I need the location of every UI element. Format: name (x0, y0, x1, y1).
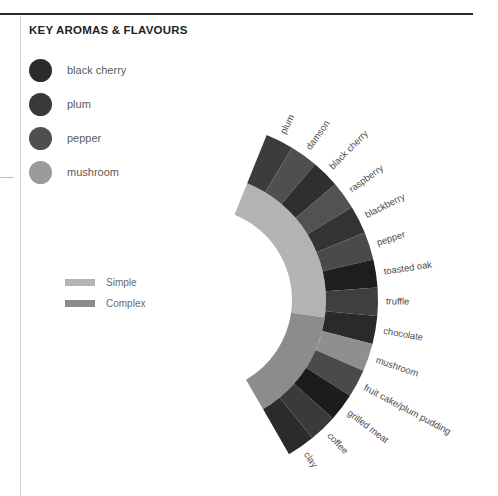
aroma-wedge-label: damson (303, 118, 331, 152)
aroma-flavour-panel: KEY AROMAS & FLAVOURS black cherry plum … (0, 0, 498, 496)
aroma-wedge-label: blackberry (363, 190, 407, 219)
aroma-wedge-label: plum (277, 112, 296, 135)
aroma-wedge-label: raspberry (347, 162, 386, 194)
aroma-wedge-label: truffle (386, 295, 409, 306)
aroma-wedge-label: chocolate (383, 325, 424, 343)
aroma-wedge-label: mushroom (375, 354, 421, 379)
aroma-fan-chart: plumdamsonblack cherryraspberryblackberr… (0, 0, 498, 496)
aroma-wedge-label: grilled meat (346, 407, 392, 445)
aroma-wedge[interactable] (325, 288, 378, 316)
aroma-wedge-label: coffee (325, 430, 350, 456)
aroma-wedge-label: toasted oak (383, 259, 433, 277)
aroma-wedge-label: black cherry (327, 128, 371, 172)
aroma-wedge-label: clay (302, 449, 321, 469)
aroma-wedge-label: pepper (375, 228, 406, 247)
